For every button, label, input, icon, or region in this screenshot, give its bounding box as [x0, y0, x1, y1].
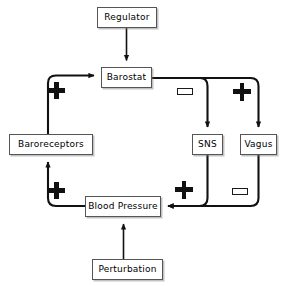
- edge-barostat-sns: [152, 78, 208, 127]
- node-barostat[interactable]: Barostat: [101, 67, 152, 88]
- node-blood-pressure-label: Blood Pressure: [88, 202, 158, 211]
- flow-diagram: Regulator Barostat Baroreceptors SNS Vag…: [0, 0, 283, 286]
- node-perturbation[interactable]: Perturbation: [92, 259, 163, 280]
- node-barostat-label: Barostat: [107, 73, 147, 82]
- plus-sign-blood-pressure-to-baroreceptors: [48, 182, 65, 199]
- node-regulator-label: Regulator: [104, 13, 149, 22]
- node-vagus[interactable]: Vagus: [240, 134, 277, 155]
- plus-sign-baroreceptors-to-barostat: [48, 82, 65, 99]
- node-blood-pressure[interactable]: Blood Pressure: [85, 196, 161, 217]
- node-perturbation-label: Perturbation: [98, 265, 156, 274]
- node-baroreceptors[interactable]: Baroreceptors: [9, 134, 93, 155]
- minus-sign-vagus-to-blood-pressure: [232, 188, 248, 195]
- plus-sign-sns-to-blood-pressure: [175, 181, 193, 199]
- plus-sign-barostat-to-vagus: [233, 83, 251, 101]
- node-sns[interactable]: SNS: [192, 134, 223, 155]
- node-regulator[interactable]: Regulator: [97, 7, 157, 28]
- node-sns-label: SNS: [198, 140, 217, 149]
- node-baroreceptors-label: Baroreceptors: [18, 140, 84, 149]
- node-vagus-label: Vagus: [244, 140, 272, 149]
- minus-sign-barostat-to-sns: [177, 88, 193, 95]
